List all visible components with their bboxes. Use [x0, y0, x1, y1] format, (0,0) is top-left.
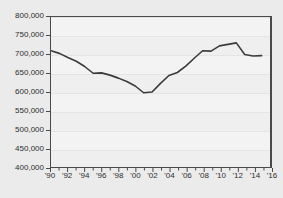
x-axis-tick-label: '96 — [96, 172, 106, 180]
x-axis-tick-label: '14 — [250, 172, 260, 180]
x-axis-tick-label: '04 — [164, 172, 174, 180]
x-axis-tick-label: '16 — [267, 172, 277, 180]
x-axis-tick-label: '90 — [45, 172, 55, 180]
x-axis-tick-label: '00 — [130, 172, 140, 180]
x-axis-tick-label: '92 — [62, 172, 72, 180]
x-axis-labels: '90'92'94'96'98'00'02'04'06'08'10'12'14'… — [0, 0, 283, 198]
x-axis-tick-label: '98 — [113, 172, 123, 180]
x-axis-tick-label: '08 — [198, 172, 208, 180]
x-axis-tick-label: '94 — [79, 172, 89, 180]
x-axis-tick-label: '06 — [181, 172, 191, 180]
x-axis-tick-label: '10 — [216, 172, 226, 180]
x-axis-tick-label: '02 — [147, 172, 157, 180]
chart-figure: 400,000450,000500,000550,000600,000650,0… — [0, 0, 283, 198]
x-axis-tick-label: '12 — [233, 172, 243, 180]
